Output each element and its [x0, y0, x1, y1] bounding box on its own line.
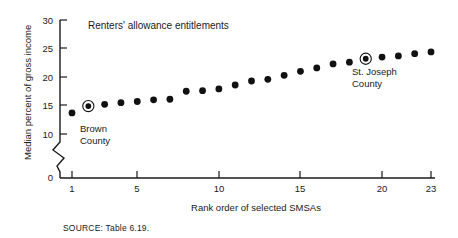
scatter-chart: Median percent of gross income 0 10 15 2… — [0, 0, 458, 238]
data-point — [346, 59, 353, 66]
x-tick-label-20: 20 — [377, 183, 388, 194]
data-point — [264, 76, 271, 83]
data-point — [150, 96, 157, 103]
point-marker — [330, 60, 337, 67]
x-tick-label-15: 15 — [295, 183, 306, 194]
data-point — [281, 72, 288, 79]
point-marker — [150, 96, 157, 103]
data-point — [183, 88, 190, 95]
source-note: SOURCE: Table 6.19. — [63, 223, 149, 233]
point-marker — [411, 50, 418, 57]
x-tick-label-1: 1 — [69, 183, 74, 194]
x-axis-title: Rank order of selected SMSAs — [191, 202, 321, 213]
point-marker — [297, 68, 304, 75]
data-point — [232, 82, 239, 89]
point-marker — [183, 88, 190, 95]
point-marker — [428, 49, 435, 56]
point-marker — [232, 82, 239, 89]
x-tick-group — [72, 171, 431, 178]
y-tick-label-25: 25 — [42, 43, 53, 54]
data-point — [313, 64, 320, 71]
data-point — [248, 78, 255, 85]
point-marker — [313, 64, 320, 71]
point-marker — [264, 76, 271, 83]
data-point-highlighted — [83, 100, 94, 111]
annotation-brown-county-line1: Brown — [80, 123, 107, 134]
annotation-st-joseph-county-line2: County — [352, 78, 382, 89]
chart-title: Renters' allowance entitlements — [88, 20, 229, 31]
data-point — [101, 101, 108, 108]
point-marker — [248, 78, 255, 85]
data-point — [330, 60, 337, 67]
y-tick-label-20: 20 — [42, 72, 53, 83]
data-point — [428, 49, 435, 56]
data-point — [118, 99, 125, 106]
annotation-st-joseph-county-line1: St. Joseph — [352, 66, 397, 77]
x-tick-label-5: 5 — [134, 183, 139, 194]
data-point — [215, 86, 222, 93]
point-marker — [395, 53, 402, 60]
data-point — [379, 54, 386, 61]
data-point-highlighted — [360, 53, 371, 64]
point-marker — [118, 99, 125, 106]
point-marker — [379, 54, 386, 61]
y-tick-label-10: 10 — [42, 129, 53, 140]
y-tick-label-15: 15 — [42, 100, 53, 111]
point-marker — [69, 110, 76, 117]
point-marker — [199, 87, 206, 94]
point-marker — [101, 101, 108, 108]
y-axis-title: Median percent of gross income — [22, 25, 33, 160]
y-tick-label-0: 0 — [48, 172, 53, 183]
data-point — [134, 98, 141, 105]
x-tick-label-10: 10 — [214, 183, 225, 194]
x-tick-label-23: 23 — [426, 183, 437, 194]
point-marker — [363, 56, 369, 62]
data-point — [395, 53, 402, 60]
point-marker — [346, 59, 353, 66]
annotation-brown-county-line2: County — [80, 135, 110, 146]
figure-container: Median percent of gross income 0 10 15 2… — [0, 0, 458, 238]
point-marker — [85, 103, 91, 109]
data-point — [69, 110, 76, 117]
point-marker — [134, 98, 141, 105]
point-marker — [281, 72, 288, 79]
y-axis-break-icon — [53, 134, 64, 178]
point-marker — [215, 86, 222, 93]
point-marker — [167, 96, 174, 103]
y-tick-label-30: 30 — [42, 15, 53, 26]
data-point — [199, 87, 206, 94]
data-point — [411, 50, 418, 57]
data-point — [167, 96, 174, 103]
data-point — [297, 68, 304, 75]
y-tick-group — [60, 20, 67, 134]
